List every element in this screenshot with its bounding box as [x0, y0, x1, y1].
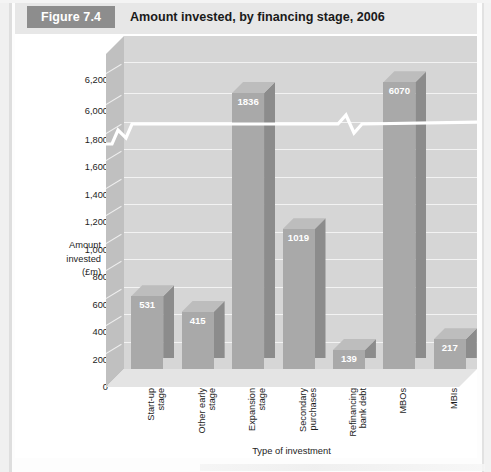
bar-front-face	[232, 93, 264, 369]
bar[interactable]: 1836	[232, 82, 264, 369]
x-axis-tick-label-line: Secondary	[298, 388, 308, 440]
y-axis-tick-label: 200	[32, 355, 108, 365]
x-axis-tick-label: Refinancingbank debt	[348, 388, 362, 440]
y-axis-tick-label: 6,200	[32, 75, 108, 85]
bar-side-face	[264, 82, 275, 358]
gridline-side	[106, 343, 122, 353]
gridline-side	[106, 288, 122, 298]
page-edge-right	[484, 0, 491, 472]
gridline-side	[106, 261, 122, 271]
gridline-side	[106, 124, 122, 134]
x-axis-tick-label-line: MBOs	[398, 388, 408, 440]
y-axis-tick-label: 1,400	[32, 190, 108, 200]
y-axis-tick-label: 6,000	[32, 106, 108, 116]
bar-side-face	[315, 218, 326, 358]
gridline-side	[106, 64, 122, 74]
gridline-side	[106, 206, 122, 216]
bar-value-label: 6070	[383, 85, 415, 96]
bar-value-label: 139	[333, 353, 365, 364]
bar[interactable]: 415	[182, 301, 214, 369]
y-axis-tick-label: 0	[32, 382, 108, 392]
bar-value-label: 1836	[232, 96, 264, 107]
bar-value-label: 531	[131, 299, 163, 310]
gridline	[124, 62, 477, 63]
gridline-side	[106, 151, 122, 161]
x-axis-tick-label-line: stage	[157, 388, 167, 440]
y-axis-tick-labels: 6,2006,0001,8001,6001,4001,2001,00080060…	[15, 34, 108, 458]
x-axis-tick-label-line: bank debt	[358, 388, 368, 440]
x-axis-tick-label: Expansionstage	[247, 388, 261, 440]
figure-number-badge: Figure 7.4	[27, 6, 115, 28]
bar[interactable]: 217	[434, 328, 466, 369]
bar[interactable]: 139	[333, 339, 365, 369]
bar-front-face	[283, 229, 315, 369]
y-axis-tick-label: 1,800	[32, 135, 108, 145]
x-axis-tick-label: MBIs	[449, 388, 463, 440]
gridline-side	[106, 316, 122, 326]
plot-floor	[106, 369, 477, 387]
bar[interactable]: 6070	[383, 71, 415, 369]
bar[interactable]: 531	[131, 285, 163, 369]
y-axis-tick-label: 1,200	[32, 217, 108, 227]
page-edge-left	[0, 0, 9, 472]
bar-side-face	[163, 285, 174, 358]
figure-header: Figure 7.4 Amount invested, by financing…	[15, 3, 477, 34]
bar-value-label: 217	[434, 342, 466, 353]
figure-title: Amount invested, by financing stage, 200…	[130, 7, 385, 28]
chart-container: Amountinvested(£m) 6,2006,0001,8001,6001…	[15, 34, 477, 458]
x-axis-tick-label-line: stage	[207, 388, 217, 440]
x-axis-tick-label-line: Start-up	[146, 388, 156, 440]
gridline-side	[106, 179, 122, 189]
x-axis-tick-label-line: stage	[257, 388, 267, 440]
bar-front-face	[383, 82, 415, 369]
page-gutter-right	[482, 0, 484, 472]
y-axis-tick-label: 800	[32, 272, 108, 282]
x-axis-tick-label-line: Other early	[197, 388, 207, 440]
plot-side-wall	[106, 36, 124, 387]
x-axis-tick-label: Secondarypurchases	[298, 388, 312, 440]
x-axis-tick-label-line: purchases	[308, 388, 318, 440]
bar-value-label: 1019	[283, 232, 315, 243]
x-axis-tick-label-line: Expansion	[247, 388, 257, 440]
x-axis-tick-label-line: Refinancing	[348, 388, 358, 440]
gridline-side	[106, 95, 122, 105]
page-gutter-left	[9, 0, 12, 472]
bar-side-face	[415, 71, 426, 358]
bar[interactable]: 1019	[283, 218, 315, 369]
gridline-side	[106, 234, 122, 244]
y-axis-tick-label: 400	[32, 327, 108, 337]
bar-value-label: 415	[182, 315, 214, 326]
x-axis-tick-label: Other earlystage	[197, 388, 211, 440]
x-axis-tick-label-line: MBIs	[449, 388, 459, 440]
page-body-text-ghost	[200, 464, 485, 471]
y-axis-tick-label: 1,000	[32, 245, 108, 255]
x-axis-title: Type of investment	[106, 445, 477, 456]
x-axis-tick-label: MBOs	[398, 388, 412, 440]
plot-area: 531415183610191396070217	[106, 36, 477, 387]
y-axis-tick-label: 600	[32, 300, 108, 310]
x-axis-tick-labels: Start-upstageOther earlystageExpansionst…	[106, 386, 477, 442]
x-axis-tick-label: Start-upstage	[146, 388, 160, 440]
y-axis-tick-label: 1,600	[32, 162, 108, 172]
